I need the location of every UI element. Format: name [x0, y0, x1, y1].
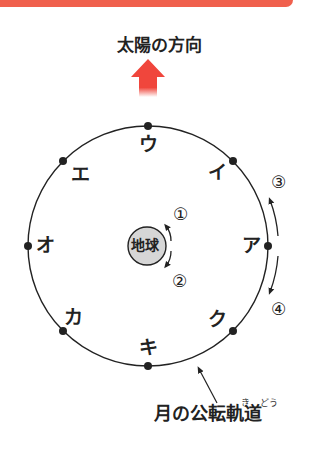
- earth-label: 地球: [131, 238, 159, 252]
- position-label-ku: ク: [208, 310, 227, 329]
- orbit-label: 月の公転軌道: [154, 405, 262, 423]
- orbit-arrow-up-icon: [270, 200, 278, 236]
- orbit-pointer-arrow-icon: [199, 369, 217, 403]
- position-label-e: エ: [71, 165, 90, 184]
- position-label-i: イ: [208, 163, 227, 182]
- orbit-arrow-down-icon: [270, 256, 278, 292]
- dot-o: [24, 242, 32, 250]
- option-2-badge: ②: [171, 273, 188, 290]
- dot-e: [59, 157, 67, 165]
- position-label-ka: カ: [64, 308, 83, 327]
- furigana-dou: どう: [260, 396, 278, 409]
- orbit-diagram: [0, 0, 315, 449]
- sun-arrow-icon: [131, 59, 165, 97]
- dot-ki: [144, 362, 152, 370]
- dot-ku: [229, 327, 237, 335]
- option-1-badge: ①: [172, 206, 189, 223]
- rotation-arrow-down-icon: [166, 251, 171, 266]
- dot-ka: [59, 327, 67, 335]
- position-label-o: オ: [36, 236, 55, 255]
- dot-u: [144, 122, 152, 130]
- rotation-arrow-up-icon: [166, 226, 171, 241]
- option-3-badge: ③: [270, 174, 287, 191]
- option-4-badge: ④: [270, 301, 287, 318]
- position-label-ki: キ: [139, 338, 158, 357]
- position-label-u: ウ: [139, 135, 158, 154]
- position-label-a: ア: [242, 236, 261, 255]
- dot-a: [264, 242, 272, 250]
- dot-i: [229, 157, 237, 165]
